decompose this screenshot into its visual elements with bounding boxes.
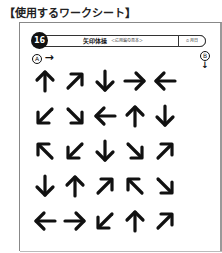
arrow-up-icon bbox=[60, 171, 90, 201]
arrow-up-icon bbox=[120, 206, 150, 236]
arrow-down-icon bbox=[30, 171, 60, 201]
arrow-up-icon bbox=[30, 66, 60, 96]
arrow-row bbox=[30, 203, 210, 238]
worksheet-subtitle: ＜応用編の見本＞ bbox=[111, 36, 143, 46]
arrow-down-left-icon bbox=[60, 136, 90, 166]
arrow-right-icon bbox=[120, 66, 150, 96]
arrow-down-left-icon bbox=[30, 101, 60, 131]
arrow-row bbox=[30, 98, 210, 133]
arrow-down-right-icon bbox=[150, 171, 180, 201]
arrow-up-left-icon bbox=[30, 136, 60, 166]
arrow-up-right-icon bbox=[90, 171, 120, 201]
section-heading: 【使用するワークシート】 bbox=[4, 4, 136, 20]
arrow-left-icon bbox=[30, 206, 60, 236]
arrow-row bbox=[30, 168, 210, 203]
arrow-up-right-icon bbox=[150, 206, 180, 236]
arrow-down-right-icon bbox=[120, 136, 150, 166]
arrow-up-left-icon bbox=[120, 171, 150, 201]
arrow-up-right-icon bbox=[60, 66, 90, 96]
arrow-left-icon bbox=[90, 101, 120, 131]
arrow-down-icon bbox=[90, 136, 120, 166]
start-marker-label: A bbox=[32, 54, 42, 64]
arrow-row bbox=[30, 63, 210, 98]
worksheet-title-bar: 16 矢印体操 ＜応用編の見本＞ ⏱ 月日 bbox=[34, 35, 206, 47]
arrow-right-icon bbox=[60, 206, 90, 236]
arrow-up-right-icon bbox=[150, 136, 180, 166]
arrow-left-icon bbox=[150, 66, 180, 96]
arrow-down-icon bbox=[150, 101, 180, 131]
time-box: ⏱ 月日 bbox=[178, 35, 206, 47]
arrow-row bbox=[30, 133, 210, 168]
arrow-down-right-icon bbox=[60, 101, 90, 131]
worksheet: 16 矢印体操 ＜応用編の見本＞ ⏱ 月日 A → B ↓ bbox=[19, 22, 222, 251]
worksheet-number-badge: 16 bbox=[31, 32, 48, 49]
arrow-down-icon bbox=[90, 66, 120, 96]
arrow-down-left-icon bbox=[90, 206, 120, 236]
arrow-grid bbox=[30, 63, 210, 238]
worksheet-title: 矢印体操 bbox=[83, 36, 107, 46]
arrow-up-icon bbox=[120, 101, 150, 131]
